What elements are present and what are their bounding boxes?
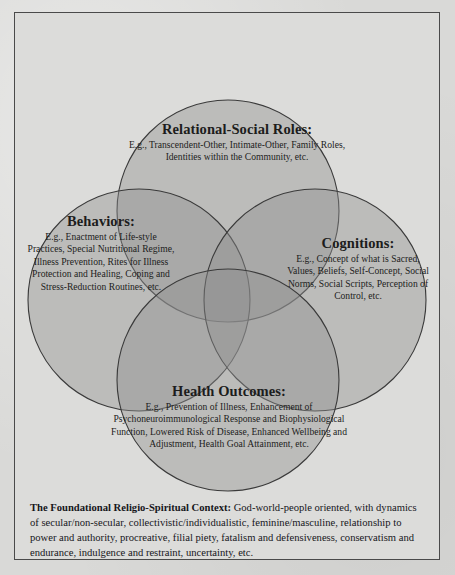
- lobe-body-relational-social-roles: E.g., Transcendent-Other, Intimate-Other…: [123, 139, 351, 164]
- lobe-body-behaviors: E.g., Enactment of Life-style Practices,…: [27, 231, 175, 293]
- caption-lead-in: The Foundational Religio-Spiritual Conte…: [30, 502, 231, 513]
- lobe-title-relational-social-roles: Relational-Social Roles:: [123, 121, 351, 138]
- lobe-title-behaviors: Behaviors:: [27, 213, 175, 230]
- lobe-body-health-outcomes: E.g., Prevention of Illness, Enhancement…: [95, 401, 363, 451]
- foundational-context-caption: The Foundational Religio-Spiritual Conte…: [30, 500, 426, 560]
- venn-diagram: Relational-Social Roles: E.g., Transcend…: [15, 13, 441, 498]
- venn-lobe-cognitions: Cognitions: E.g., Concept of what is Sac…: [287, 235, 429, 303]
- lobe-title-health-outcomes: Health Outcomes:: [95, 383, 363, 400]
- venn-lobe-relational-social-roles: Relational-Social Roles: E.g., Transcend…: [123, 121, 351, 164]
- venn-lobe-health-outcomes: Health Outcomes: E.g., Prevention of Ill…: [95, 383, 363, 451]
- diagram-page: Relational-Social Roles: E.g., Transcend…: [0, 0, 455, 575]
- lobe-title-cognitions: Cognitions:: [287, 235, 429, 252]
- lobe-body-cognitions: E.g., Concept of what is Sacred, Values,…: [287, 253, 429, 303]
- venn-lobe-behaviors: Behaviors: E.g., Enactment of Life-style…: [27, 213, 175, 293]
- diagram-frame: Relational-Social Roles: E.g., Transcend…: [14, 12, 440, 560]
